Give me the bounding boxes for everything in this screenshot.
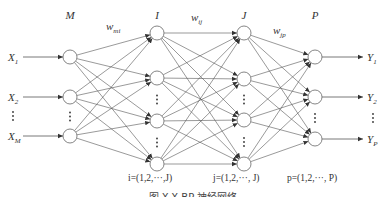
input-label-x2: X2 [7, 91, 19, 106]
ellipsis-dot [243, 103, 245, 105]
connection-line [164, 78, 237, 79]
bp-neural-network-diagram: MIJPX1X2XMY1Y2YPwmiwijwjpi=(1,2,···,J)j=… [0, 0, 387, 197]
ellipsis-dot [243, 141, 245, 143]
neuron-node-i [150, 71, 164, 85]
connection-line [77, 99, 151, 119]
neuron-node-j [237, 113, 251, 127]
ellipsis-dot [243, 137, 245, 139]
ellipsis-dot [372, 113, 374, 115]
ellipsis-dot [243, 99, 245, 101]
ellipsis-dot [69, 112, 71, 114]
ellipsis-dot [372, 117, 374, 119]
neuron-node-j [237, 26, 251, 40]
ellipsis-dot [69, 116, 71, 118]
neuron-node-i [150, 114, 164, 128]
output-label-y2: Y2 [367, 91, 377, 106]
neuron-node-p [308, 90, 322, 104]
neuron-node-p [308, 132, 322, 146]
output-label-yp: YP [367, 133, 378, 148]
ellipsis-dot [156, 146, 158, 148]
connection-line [164, 120, 237, 121]
neuron-node-j [237, 72, 251, 86]
connection-line [251, 141, 309, 161]
connection-line [251, 122, 308, 137]
connection-line [249, 62, 310, 116]
connection-line [249, 84, 309, 135]
weight-label-wmi: wmi [106, 20, 120, 35]
connection-line [163, 82, 237, 118]
ellipsis-dot [156, 99, 158, 101]
ellipsis-dot [156, 103, 158, 105]
connection-line [249, 38, 310, 93]
neuron-node-i [150, 157, 164, 171]
layer-label-i: I [154, 9, 160, 21]
connection-line [76, 82, 151, 132]
connection-line [251, 59, 309, 77]
connection-line [77, 79, 150, 95]
connections [74, 33, 311, 164]
weight-label-wjp: wjp [273, 24, 286, 39]
layer-label-j: J [242, 9, 248, 21]
ellipsis-dot [69, 120, 71, 122]
ellipsis-dot [12, 111, 14, 113]
index-range-label: j=(1,2,···, J) [212, 173, 260, 184]
ellipsis-dot [156, 142, 158, 144]
index-range-label: i=(1,2,···,J) [128, 173, 172, 184]
ellipsis-dot [372, 121, 374, 123]
neuron-node-m [63, 90, 77, 104]
ellipsis-dot [243, 95, 245, 97]
input-label-xm: XM [7, 130, 22, 145]
neuron-node-i [150, 26, 164, 40]
layer-label-m: M [64, 9, 75, 21]
connection-line [251, 99, 309, 118]
ellipsis-dot [12, 119, 14, 121]
neuron-node-j [237, 157, 251, 171]
neuron-node-p [308, 50, 322, 64]
connection-line [74, 62, 152, 158]
layer-label-p: P [311, 9, 319, 21]
weight-label-wij: wij [191, 11, 202, 26]
ellipsis-dot [314, 117, 316, 119]
ellipsis-dot [156, 138, 158, 140]
connection-line [77, 35, 151, 55]
index-range-label: p=(1,2,···, P) [287, 173, 337, 184]
figure-caption: 图 X-X BP 神经网络 [149, 191, 238, 197]
ellipsis-dot [314, 113, 316, 115]
input-label-x1: X1 [7, 51, 18, 66]
neuron-node-m [63, 129, 77, 143]
ellipsis-dot [243, 145, 245, 147]
connection-line [248, 39, 311, 133]
connection-line [77, 59, 150, 77]
output-label-y1: Y1 [367, 51, 377, 66]
neuron-node-m [63, 50, 77, 64]
ellipsis-dot [156, 95, 158, 97]
ellipsis-dot [314, 121, 316, 123]
ellipsis-dot [12, 115, 14, 117]
